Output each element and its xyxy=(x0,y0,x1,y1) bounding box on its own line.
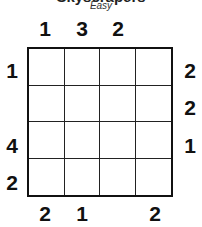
clue-top-1: 1 xyxy=(33,17,57,41)
puzzle-grid xyxy=(27,47,173,197)
grid-cell-r4c2[interactable] xyxy=(65,159,101,196)
grid-cell-r1c3[interactable] xyxy=(100,49,136,86)
clue-bottom-1: 2 xyxy=(33,202,57,226)
grid-cell-r3c1[interactable] xyxy=(29,122,65,159)
grid-cell-r4c3[interactable] xyxy=(100,159,136,196)
grid-cell-r1c2[interactable] xyxy=(65,49,101,86)
grid-cell-r4c1[interactable] xyxy=(29,159,65,196)
grid-cell-r1c1[interactable] xyxy=(29,49,65,86)
grid-cell-r3c3[interactable] xyxy=(100,122,136,159)
clue-bottom-2: 1 xyxy=(70,202,94,226)
clue-left-3: 4 xyxy=(0,134,24,158)
grid-cell-r2c4[interactable] xyxy=(136,86,172,123)
clue-right-1: 2 xyxy=(178,59,202,83)
clue-right-2: 2 xyxy=(178,96,202,120)
grid-cell-r2c3[interactable] xyxy=(100,86,136,123)
grid-cell-r4c4[interactable] xyxy=(136,159,172,196)
difficulty-label: Easy xyxy=(0,0,202,11)
clue-top-3: 2 xyxy=(106,17,130,41)
grid-cell-r3c2[interactable] xyxy=(65,122,101,159)
grid-cell-r1c4[interactable] xyxy=(136,49,172,86)
grid-cell-r3c4[interactable] xyxy=(136,122,172,159)
clue-bottom-4: 2 xyxy=(143,202,167,226)
clue-left-1: 1 xyxy=(0,59,24,83)
clue-left-4: 2 xyxy=(0,171,24,195)
clue-top-2: 3 xyxy=(70,17,94,41)
clue-right-3: 1 xyxy=(178,134,202,158)
grid-cell-r2c2[interactable] xyxy=(65,86,101,123)
grid-cell-r2c1[interactable] xyxy=(29,86,65,123)
